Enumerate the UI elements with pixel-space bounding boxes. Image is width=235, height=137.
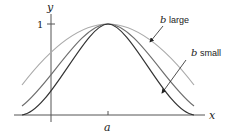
curve-b-small xyxy=(22,24,194,115)
annotation-b-large: b large xyxy=(160,14,189,25)
gaussian-curves-figure: y x 1 a b large b small xyxy=(0,0,235,137)
curve-b-large xyxy=(22,24,194,85)
plot-canvas: y x 1 a b large b small xyxy=(0,0,235,137)
annotation-b-large-text: large xyxy=(166,15,189,25)
curve-b-medium xyxy=(22,24,194,106)
x-axis-label: x xyxy=(209,109,216,122)
annotation-b-small-text: small xyxy=(197,48,221,58)
arrow-b-large xyxy=(150,26,163,42)
y-tick-label: 1 xyxy=(37,19,43,30)
y-axis-label: y xyxy=(46,1,54,14)
annotation-b-small: b small xyxy=(191,47,221,58)
arrow-b-small xyxy=(162,60,186,93)
x-tick-label: a xyxy=(104,121,111,134)
